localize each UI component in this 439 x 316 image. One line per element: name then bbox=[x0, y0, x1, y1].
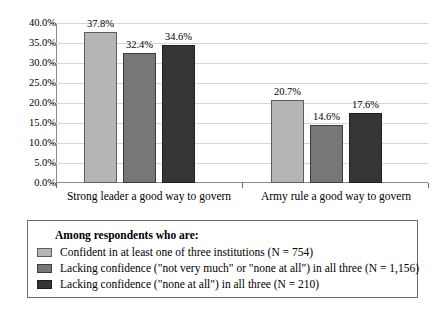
bar-value-label: 37.8% bbox=[78, 18, 123, 29]
bar-value-label: 14.6% bbox=[304, 111, 349, 122]
x-axis-tick-mark bbox=[56, 183, 57, 188]
y-axis-tick-label: 40.0% bbox=[6, 18, 56, 29]
legend-item-label: Confident in at least one of three insti… bbox=[60, 245, 313, 259]
bar bbox=[349, 113, 382, 183]
legend-swatch bbox=[37, 264, 52, 273]
legend-swatch bbox=[37, 248, 52, 257]
y-axis-tick-label: 35.0% bbox=[6, 38, 56, 49]
bar bbox=[271, 100, 304, 183]
y-axis-tick-mark bbox=[50, 23, 54, 24]
y-axis-tick-mark bbox=[50, 43, 54, 44]
legend-item-label: Lacking confidence ("not very much" or "… bbox=[60, 261, 419, 275]
bar-value-label: 17.6% bbox=[343, 99, 388, 110]
bar-value-label: 20.7% bbox=[265, 86, 310, 97]
y-axis-tick-mark bbox=[50, 83, 54, 84]
x-axis-tick-mark bbox=[428, 183, 429, 188]
x-axis-tick-mark bbox=[242, 183, 243, 188]
y-axis-tick-label: 15.0% bbox=[6, 118, 56, 129]
legend: Among respondents who are: Confident in … bbox=[27, 220, 418, 298]
bar bbox=[84, 32, 117, 183]
legend-item-label: Lacking confidence ("none at all") in al… bbox=[60, 277, 319, 291]
y-axis-tick-label: 5.0% bbox=[6, 158, 56, 169]
y-axis-tick-mark bbox=[50, 143, 54, 144]
bar-value-label: 34.6% bbox=[156, 31, 201, 42]
bar bbox=[162, 45, 195, 183]
legend-swatch bbox=[37, 280, 52, 289]
y-axis-tick-mark bbox=[50, 63, 54, 64]
x-axis-category-label: Army rule a good way to govern bbox=[226, 190, 439, 203]
y-axis-tick-label: 10.0% bbox=[6, 138, 56, 149]
y-axis-tick-mark bbox=[50, 123, 54, 124]
y-axis-tick-label: 25.0% bbox=[6, 78, 56, 89]
y-axis-tick-mark bbox=[50, 163, 54, 164]
bar bbox=[310, 125, 343, 183]
bar-chart-figure: 0.0%5.0%10.0%15.0%20.0%25.0%30.0%35.0%40… bbox=[0, 0, 439, 316]
y-axis-tick-label: 20.0% bbox=[6, 98, 56, 109]
y-axis-tick-label: 30.0% bbox=[6, 58, 56, 69]
y-axis: 0.0%5.0%10.0%15.0%20.0%25.0%30.0%35.0%40… bbox=[0, 23, 56, 183]
bar bbox=[123, 53, 156, 183]
y-axis-tick-label: 0.0% bbox=[6, 178, 56, 189]
y-axis-tick-mark bbox=[50, 103, 54, 104]
y-axis-tick-mark bbox=[50, 183, 54, 184]
legend-title: Among respondents who are: bbox=[55, 229, 199, 242]
plot-area: 37.8%32.4%34.6%20.7%14.6%17.6% bbox=[56, 23, 428, 183]
